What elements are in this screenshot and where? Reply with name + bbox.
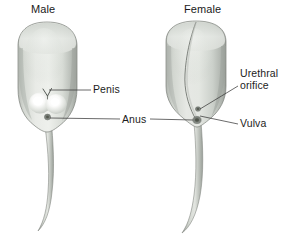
label-urethral-orifice-line1: Urethral — [240, 67, 278, 79]
anatomy-figure: Male Female Penis Anus Urethralorifice V… — [0, 0, 293, 236]
male-anus-marker-core — [46, 116, 49, 119]
male-testis-right-core — [51, 98, 60, 106]
label-anus: Anus — [122, 114, 146, 126]
female-tail — [182, 122, 203, 233]
female-urethral-orifice-core — [197, 108, 199, 110]
label-urethral-orifice: Urethralorifice — [240, 68, 278, 91]
label-penis: Penis — [93, 84, 120, 96]
male-title: Male — [31, 4, 55, 16]
male-testis-left-core — [33, 97, 43, 106]
male-tail — [38, 118, 54, 231]
label-urethral-orifice-line2: orifice — [240, 79, 269, 91]
label-vulva: Vulva — [240, 118, 266, 130]
female-vulva-core — [195, 118, 199, 121]
male-specimen — [18, 22, 77, 231]
female-title: Female — [184, 4, 221, 16]
female-specimen — [166, 21, 226, 233]
female-body-sheen — [174, 28, 212, 88]
male-body-sheen — [24, 28, 64, 88]
